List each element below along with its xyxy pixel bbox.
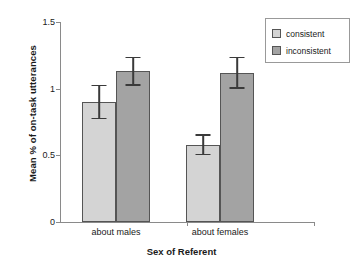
error-bar-about-females-consistent — [186, 134, 220, 155]
y-tick-label-1: 0.5 — [42, 150, 55, 160]
bar-about-females-inconsistent[interactable] — [220, 73, 254, 222]
chart-figure: Mean % of on-task utterances 0 0.5 1 1.5 — [0, 0, 363, 269]
legend-item-consistent[interactable]: consistent — [272, 25, 349, 42]
legend: consistent inconsistent — [265, 18, 350, 63]
x-category-label-about-females: about females — [192, 227, 249, 237]
bar-about-males-inconsistent[interactable] — [116, 71, 150, 222]
y-tick-label-3: 1.5 — [42, 17, 55, 27]
y-axis-line — [60, 22, 61, 222]
legend-label-consistent: consistent — [286, 29, 324, 39]
error-bar-about-females-inconsistent — [220, 57, 254, 89]
legend-item-inconsistent[interactable]: inconsistent — [272, 42, 349, 59]
y-axis-title: Mean % of on-task utterances — [27, 24, 38, 204]
x-category-label-about-males: about males — [91, 227, 140, 237]
x-tick-separator — [187, 222, 188, 226]
error-bar-about-males-consistent — [82, 85, 116, 120]
bar-about-males-consistent[interactable] — [82, 102, 116, 222]
x-tick-end — [314, 222, 315, 226]
x-axis-title: Sex of Referent — [0, 246, 363, 257]
legend-swatch-consistent-icon — [272, 29, 281, 38]
legend-swatch-inconsistent-icon — [272, 46, 281, 55]
y-tick-label-2: 1 — [50, 84, 55, 94]
y-tick-label-0: 0 — [50, 217, 55, 227]
legend-label-inconsistent: inconsistent — [286, 46, 331, 56]
bar-about-females-consistent[interactable] — [186, 145, 220, 222]
error-bar-about-males-inconsistent — [116, 57, 150, 86]
